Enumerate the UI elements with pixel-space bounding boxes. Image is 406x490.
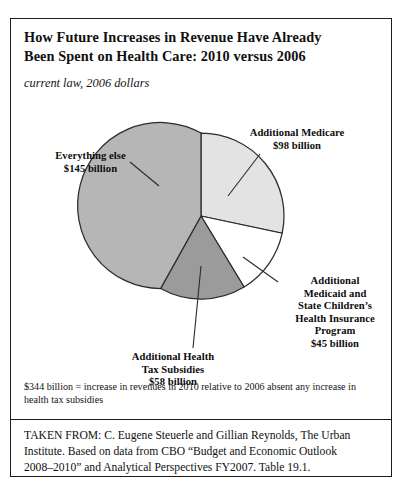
callout-additional-medicare: Additional Medicare $98 billion xyxy=(228,127,366,152)
callout-line: Medicaid and xyxy=(279,288,391,301)
callout-line: $145 billion xyxy=(23,163,158,176)
pie-chart-graphic xyxy=(11,19,393,478)
callout-line: Additional Medicare xyxy=(228,127,366,140)
callout-everything-else: Everything else $145 billion xyxy=(23,150,158,175)
callout-line: Tax Subsidies xyxy=(97,364,249,377)
callout-line: $98 billion xyxy=(228,140,366,153)
figure-source: TAKEN FROM: C. Eugene Steuerle and Gilli… xyxy=(24,428,380,477)
callout-line: $45 billion xyxy=(279,338,391,351)
pie-chart: Additional Medicare $98 billion Everythi… xyxy=(11,19,393,478)
figure-frame: How Future Increases in Revenue Have Alr… xyxy=(10,18,392,477)
figure-footnote: $344 billion = increase in revenues in 2… xyxy=(24,380,376,407)
callout-line: Additional Health xyxy=(97,351,249,364)
callout-line: Additional xyxy=(279,275,391,288)
source-line: TAKEN FROM: C. Eugene Steuerle and Gilli… xyxy=(24,428,380,444)
callout-additional-medicaid-schip: Additional Medicaid and State Children’s… xyxy=(279,275,391,351)
source-line: 2008–2010” and Analytical Perspectives F… xyxy=(24,460,380,476)
callout-line: Everything else xyxy=(23,150,158,163)
footnote-divider xyxy=(11,419,391,420)
callout-line: State Children’s xyxy=(279,300,391,313)
callout-line: Program xyxy=(279,325,391,338)
callout-line: Health Insurance xyxy=(279,313,391,326)
source-line: Institute. Based on data from CBO “Budge… xyxy=(24,444,380,460)
